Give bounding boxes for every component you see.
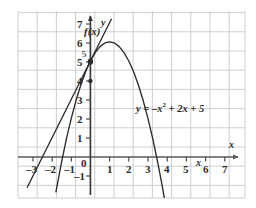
x-tick-4: 4: [164, 164, 170, 175]
y-tick-7: 7: [77, 19, 83, 30]
coordinate-plane-svg: [0, 0, 256, 208]
y-axis-label: y: [101, 18, 105, 28]
y-tick-5: 5: [77, 57, 83, 68]
y-tick-3: 3: [77, 95, 83, 106]
y-tick-4: 4: [77, 76, 83, 87]
equation-suffix: + 2x + 5: [166, 103, 204, 114]
point-marker-secondary: [88, 79, 92, 83]
x-axis-label: x: [229, 140, 234, 150]
x-tick-5: 5: [183, 164, 189, 175]
graph-figure: y x f(x) 5 y = –x2 + 2x + 5 x 7 6 5 4 3 …: [0, 0, 256, 208]
point-marker: [88, 59, 93, 64]
x-tick-neg-2: –2: [45, 164, 56, 175]
y-tick-2: 2: [77, 114, 83, 125]
x-tick-neg-1: –1: [64, 164, 75, 175]
x-tick-7: 7: [222, 164, 228, 175]
y-tick-1: 1: [77, 133, 83, 144]
stray-x-label: x: [196, 158, 201, 168]
x-tick-6: 6: [203, 164, 209, 175]
equation-prefix: y = –x: [136, 103, 162, 114]
x-tick-3: 3: [145, 164, 151, 175]
origin-label: 0: [81, 158, 87, 169]
function-label: f(x): [84, 26, 101, 37]
curve-equation-label: y = –x2 + 2x + 5: [136, 102, 204, 114]
y-tick-6: 6: [77, 38, 83, 49]
x-tick-neg-3: –3: [26, 164, 37, 175]
x-tick-1: 1: [107, 164, 113, 175]
y-tick-neg-1: –1: [74, 171, 85, 182]
x-tick-2: 2: [126, 164, 132, 175]
